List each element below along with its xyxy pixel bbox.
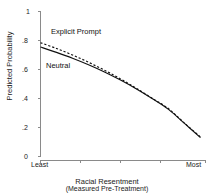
line-neutral [41, 47, 201, 138]
chart-figure: Predicted Probability 0 .2 .4 .6 .8 1 Le… [0, 0, 214, 196]
line-explicit-prompt [41, 43, 201, 137]
series-group [41, 43, 201, 138]
plot-canvas [0, 0, 214, 196]
axes-group [38, 11, 206, 164]
